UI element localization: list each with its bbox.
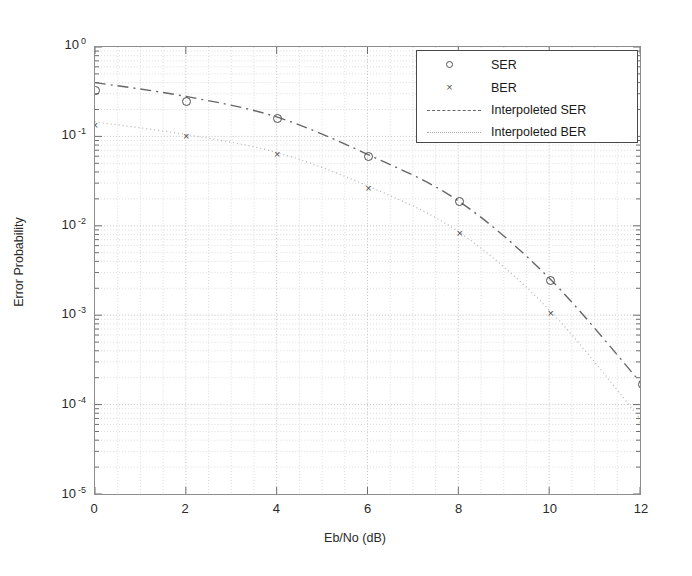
- legend-label-interpolated-ser: Interpoleted SER: [491, 103, 586, 117]
- cross-marker-icon: ×: [445, 83, 454, 92]
- y-tick-mantissa: 10: [62, 217, 76, 232]
- y-tick-exponent: 0: [81, 36, 86, 46]
- legend-key-interpolated-ser: [417, 98, 491, 121]
- y-tick-label: 10-5: [18, 485, 86, 501]
- y-tick-label: 10-3: [18, 305, 86, 321]
- marker-ber: ×: [364, 183, 374, 193]
- x-tick-label: 8: [455, 501, 462, 516]
- legend-label-ser: SER: [491, 58, 517, 72]
- legend-item-ber[interactable]: × BER: [417, 76, 637, 99]
- y-tick-label: 10-1: [18, 126, 86, 142]
- y-tick-exponent: -3: [78, 305, 86, 315]
- marker-ber: ×: [546, 308, 556, 318]
- dotted-line-icon: [427, 132, 481, 133]
- legend-key-interpolated-ber: [417, 120, 491, 143]
- marker-ser: [182, 97, 191, 106]
- marker-ber: ×: [181, 131, 191, 141]
- x-tick-label: 2: [182, 501, 189, 516]
- marker-ser: [546, 276, 555, 285]
- x-tick-label: 4: [273, 501, 280, 516]
- dash-dot-line-icon: [427, 110, 481, 111]
- legend-label-ber: BER: [491, 81, 517, 95]
- y-tick-mantissa: 10: [65, 37, 79, 52]
- marker-ser: [94, 86, 100, 95]
- y-tick-mantissa: 10: [62, 397, 76, 412]
- y-tick-mantissa: 10: [62, 486, 76, 501]
- legend-key-ber: ×: [417, 76, 491, 99]
- legend-item-interpolated-ber[interactable]: Interpoleted BER: [417, 120, 637, 143]
- y-tick-label: 10-4: [18, 395, 86, 411]
- y-tick-mantissa: 10: [62, 307, 76, 322]
- circle-marker-icon: [446, 61, 453, 68]
- x-axis-title: Eb/No (dB): [324, 531, 386, 545]
- marker-ser: [455, 197, 464, 206]
- y-tick-mantissa: 10: [62, 127, 76, 142]
- x-tick-label: 0: [90, 501, 97, 516]
- marker-ser: [273, 114, 282, 123]
- y-tick-exponent: -1: [78, 126, 86, 136]
- y-tick-exponent: -5: [78, 485, 86, 495]
- marker-ser: [638, 380, 642, 389]
- y-tick-exponent: -2: [78, 216, 86, 226]
- legend[interactable]: SER × BER Interpoleted SER Interpoleted …: [416, 50, 638, 143]
- marker-ber: ×: [272, 149, 282, 159]
- x-axis-title-wrap: Eb/No (dB): [0, 531, 692, 545]
- marker-ber: ×: [94, 120, 100, 130]
- marker-ser: [364, 152, 373, 161]
- marker-ber: ×: [637, 415, 641, 425]
- legend-key-ser: [417, 53, 491, 76]
- y-tick-label: 10-2: [18, 216, 86, 232]
- figure-canvas: Error Probability 10010-110-210-310-410-…: [0, 0, 692, 576]
- legend-item-ser[interactable]: SER: [417, 53, 637, 76]
- x-tick-label: 10: [543, 501, 557, 516]
- marker-ber: ×: [455, 228, 465, 238]
- x-tick-label: 12: [634, 501, 648, 516]
- legend-item-interpolated-ser[interactable]: Interpoleted SER: [417, 98, 637, 121]
- y-tick-exponent: -4: [78, 395, 86, 405]
- y-tick-label: 100: [18, 36, 86, 52]
- x-tick-label: 6: [364, 501, 371, 516]
- legend-label-interpolated-ber: Interpoleted BER: [491, 125, 586, 139]
